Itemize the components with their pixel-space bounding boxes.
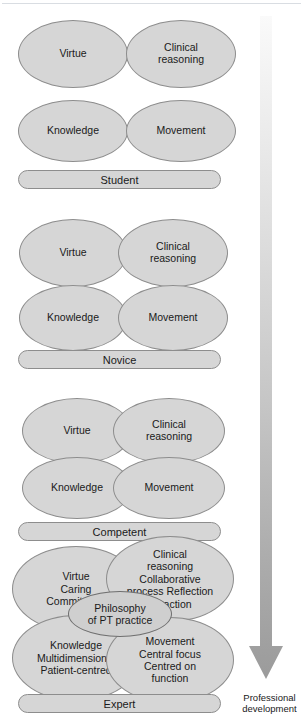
attribute-label: Clinicalreasoning bbox=[119, 241, 227, 265]
stage-label: Novice bbox=[103, 354, 137, 366]
stage-bar-expert: Expert bbox=[18, 694, 221, 713]
attribute-label: Knowledge bbox=[19, 125, 127, 137]
attribute-ellipse-movement: Movement bbox=[113, 457, 225, 519]
attribute-ellipse-knowledge: Knowledge bbox=[18, 100, 128, 162]
attribute-label: Knowledge bbox=[20, 312, 126, 324]
attribute-label: Clinicalreasoning bbox=[127, 42, 235, 66]
stage-label: Expert bbox=[104, 698, 136, 710]
attribute-ellipse-movement: Movement bbox=[118, 285, 228, 351]
attribute-ellipse-clinical-reasoning: Clinicalreasoning bbox=[118, 219, 228, 287]
stage-label: Student bbox=[101, 174, 139, 186]
core-label: Philosophyof PT practice bbox=[69, 602, 171, 627]
attribute-label: Virtue bbox=[20, 247, 126, 259]
attribute-label: MovementCentral focusCentred onfunction bbox=[107, 635, 233, 685]
attribute-ellipse-movement: Movement bbox=[126, 100, 236, 162]
attribute-ellipse-clinical-reasoning: Clinicalreasoning bbox=[113, 398, 225, 464]
stage-label: Competent bbox=[93, 526, 147, 538]
top-divider bbox=[2, 3, 301, 4]
attribute-label: Movement bbox=[114, 482, 224, 494]
arrow-label: Professionaldevelopment bbox=[236, 692, 303, 714]
attribute-label: Virtue bbox=[19, 48, 127, 60]
stage-bar-student: Student bbox=[18, 170, 221, 189]
attribute-label: Movement bbox=[127, 125, 235, 137]
core-ellipse-philosophy-of-pt-practice: Philosophyof PT practice bbox=[68, 591, 172, 637]
professional-development-arrow: Professionaldevelopment bbox=[236, 16, 303, 723]
stage-bar-novice: Novice bbox=[18, 350, 221, 369]
attribute-ellipse-virtue: Virtue bbox=[18, 20, 128, 88]
attribute-ellipse-clinical-reasoning: Clinicalreasoning bbox=[126, 20, 236, 88]
attribute-label: Movement bbox=[119, 312, 227, 324]
attribute-ellipse-virtue: Virtue bbox=[19, 219, 127, 287]
attribute-ellipse-knowledge: Knowledge bbox=[19, 285, 127, 351]
professional-development-diagram: Virtue Clinicalreasoning Knowledge Movem… bbox=[0, 0, 303, 723]
attribute-label: Clinicalreasoning bbox=[114, 419, 224, 443]
